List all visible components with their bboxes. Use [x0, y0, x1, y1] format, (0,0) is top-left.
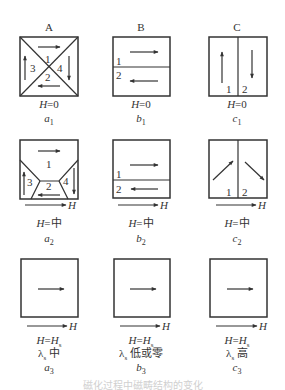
column-header-a: A [9, 21, 89, 34]
svg-text:1: 1 [226, 83, 232, 95]
svg-text:1: 1 [116, 55, 122, 67]
svg-text:H: H [68, 320, 78, 332]
caption-c1: c1 [197, 112, 277, 129]
caption-a2: a2 [9, 232, 89, 249]
field-label-b1: H=0 [101, 98, 181, 111]
svg-text:4: 4 [57, 62, 63, 74]
field-label-b2: H=中 [101, 217, 181, 230]
figure-caption: 磁化过程中磁畴结构的变化 [0, 377, 285, 390]
domain-diagram: 1234 12 12 1234 12 12 HHH HHH [0, 0, 285, 390]
panel-a3 [21, 259, 78, 326]
column-header-b: B [101, 21, 181, 34]
panel-c3 [210, 259, 267, 326]
caption-a3: a3 [9, 361, 89, 378]
svg-text:2: 2 [242, 186, 248, 198]
svg-text:2: 2 [46, 180, 52, 192]
field-label-a2: H=中 [9, 217, 89, 230]
caption-a1: a1 [9, 112, 89, 129]
svg-text:2: 2 [116, 183, 122, 195]
caption-b3: b3 [101, 361, 181, 378]
panel-c2 [209, 140, 267, 205]
caption-b2: b2 [101, 232, 181, 249]
caption-b1: b1 [101, 112, 181, 129]
svg-text:H: H [258, 320, 268, 332]
column-header-c: C [197, 21, 277, 34]
panel-b2 [113, 140, 170, 205]
panel-b3 [114, 259, 170, 326]
svg-text:2: 2 [116, 69, 122, 81]
svg-text:1: 1 [45, 53, 51, 65]
panel-b1 [113, 37, 170, 96]
arrow-diag-up-icon [213, 161, 233, 180]
svg-text:H: H [159, 199, 169, 211]
svg-text:2: 2 [45, 71, 51, 83]
svg-text:3: 3 [27, 176, 33, 188]
caption-c3: c3 [197, 361, 277, 378]
svg-text:2: 2 [242, 83, 248, 95]
field-label-c1: H=0 [197, 98, 277, 111]
svg-text:3: 3 [30, 62, 36, 74]
svg-text:4: 4 [63, 175, 69, 187]
arrow-diag-down-icon [245, 162, 264, 180]
field-label-a1: HH=0=0 [9, 98, 89, 111]
svg-text:1: 1 [116, 168, 122, 180]
field-label-c2: H=中 [197, 217, 277, 230]
svg-text:H: H [161, 320, 171, 332]
svg-text:1: 1 [46, 158, 52, 170]
panel-a2 [20, 140, 78, 205]
svg-text:1: 1 [226, 186, 232, 198]
caption-c2: c2 [197, 232, 277, 249]
panel-c1 [209, 37, 267, 96]
svg-text:H: H [67, 199, 77, 211]
svg-text:H: H [257, 199, 267, 211]
panel-a1 [20, 37, 78, 96]
